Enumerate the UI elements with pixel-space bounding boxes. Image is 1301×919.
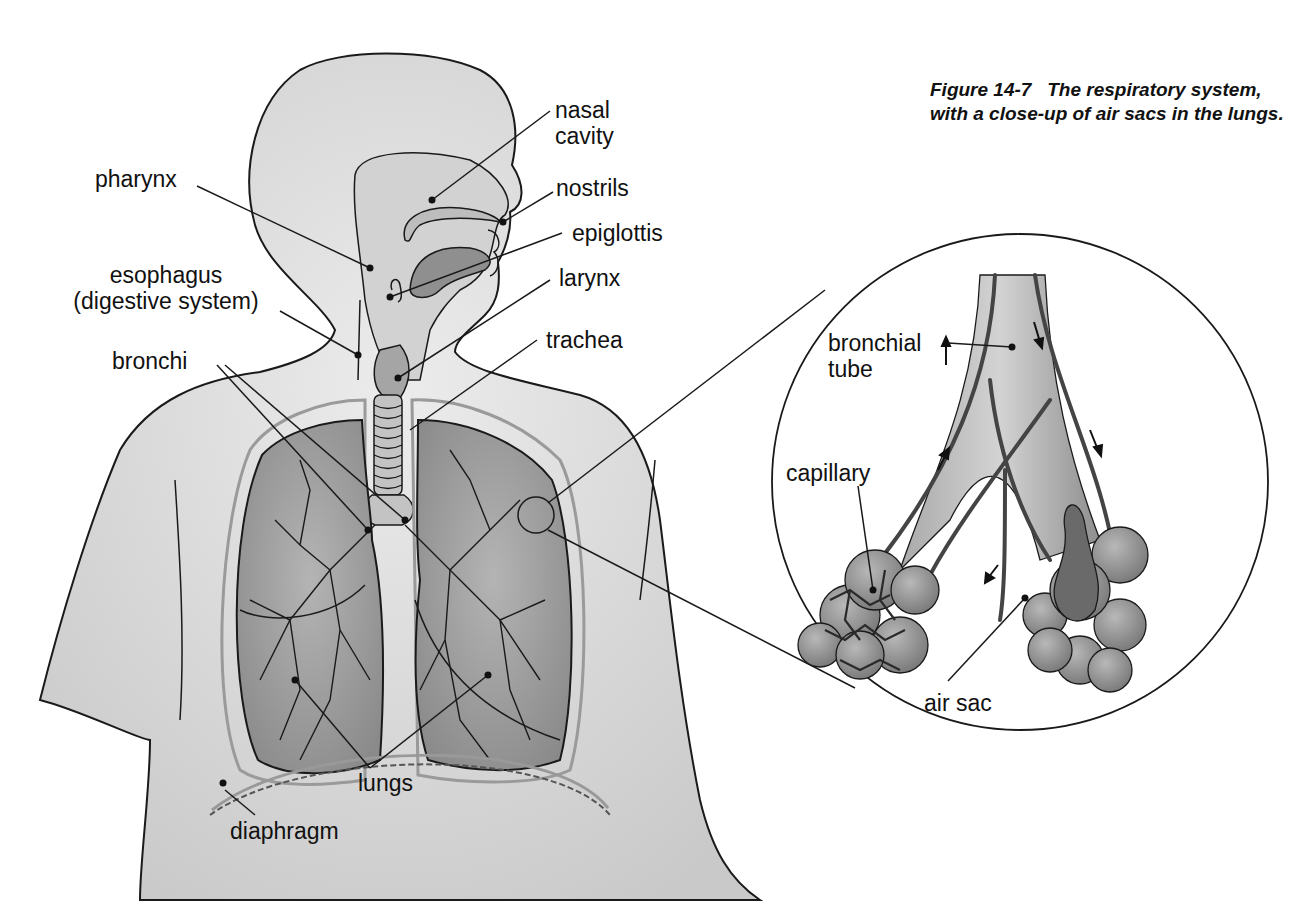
label-esophagus-line2: (digestive system) <box>46 288 286 314</box>
label-air-sac: air sac <box>924 690 992 716</box>
label-capillary: capillary <box>786 460 870 486</box>
label-lungs: lungs <box>358 770 413 796</box>
label-bronchial-tube-line1: bronchial <box>828 330 921 356</box>
label-trachea: trachea <box>546 327 623 353</box>
label-bronchi: bronchi <box>112 348 187 374</box>
label-esophagus: esophagus (digestive system) <box>46 262 286 314</box>
label-nasal-cavity-line2: cavity <box>555 123 614 149</box>
label-nasal-cavity-line1: nasal <box>555 97 614 123</box>
label-nostrils: nostrils <box>556 175 629 201</box>
respiratory-system-diagram <box>0 0 1301 919</box>
label-epiglottis: epiglottis <box>572 220 663 246</box>
figure-caption: Figure 14-7 The respiratory system, with… <box>930 78 1300 126</box>
label-nasal-cavity: nasal cavity <box>555 97 614 149</box>
label-bronchial-tube: bronchial tube <box>828 330 921 382</box>
label-pharynx: pharynx <box>95 166 177 192</box>
label-bronchial-tube-line2: tube <box>828 356 921 382</box>
label-diaphragm: diaphragm <box>230 818 339 844</box>
label-larynx: larynx <box>559 265 620 291</box>
figure-number: Figure 14-7 <box>930 79 1031 100</box>
label-esophagus-line1: esophagus <box>46 262 286 288</box>
